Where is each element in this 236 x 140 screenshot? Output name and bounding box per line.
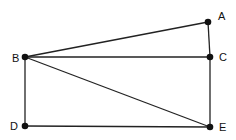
point-e (207, 124, 214, 131)
point-a (205, 19, 212, 26)
point-d (22, 123, 29, 130)
segment-be (25, 57, 210, 127)
point-label-c: C (219, 51, 227, 63)
segment-ac (208, 22, 210, 57)
geometry-diagram: ABCDE (0, 0, 236, 140)
segment-de (25, 126, 210, 127)
point-label-d: D (10, 120, 18, 132)
labels-group: ABCDE (10, 10, 227, 133)
point-label-a: A (218, 10, 226, 22)
point-b (22, 54, 29, 61)
segment-ba (25, 22, 208, 57)
diagram-svg: ABCDE (0, 0, 236, 140)
point-label-b: B (12, 52, 19, 64)
point-c (207, 54, 214, 61)
point-label-e: E (219, 121, 226, 133)
segments-group (25, 22, 210, 127)
points-group (22, 19, 214, 131)
